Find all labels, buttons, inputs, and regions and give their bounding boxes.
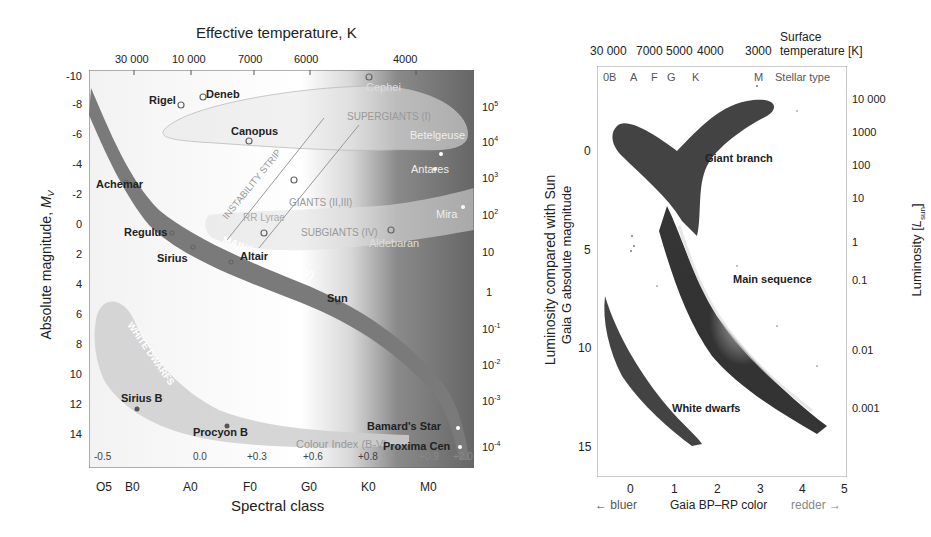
stellar-type: K <box>692 71 699 83</box>
star-label-barnards-star: Bamard's Star <box>367 420 441 432</box>
bluer-hint: ← bluer <box>595 498 637 512</box>
gaia-lum-tick: 10 000 <box>852 93 886 105</box>
star-label-procyon-b: Procyon B <box>193 426 248 438</box>
stellar-type: 0B <box>603 71 616 83</box>
mag-tick: -8 <box>72 98 82 110</box>
lum-tick: 10 <box>482 245 494 258</box>
lum-tick: 104 <box>482 135 498 148</box>
star-label-sirius-b: Sirius B <box>121 392 163 404</box>
ylabel-sub: V <box>46 190 56 196</box>
mag-tick: -10 <box>66 70 82 82</box>
gaia-mag-tick: 0 <box>584 144 591 158</box>
star-label-regulus: Regulus <box>124 226 167 238</box>
mag-tick: 6 <box>76 308 82 320</box>
gaia-lum-tick: 0.1 <box>852 274 867 286</box>
lum-tick: 1 <box>486 285 492 298</box>
gaia-x-axis-label: Gaia BP–RP color <box>670 498 767 512</box>
gaia-y2sym: L <box>909 220 924 227</box>
mag-tick: -4 <box>72 158 82 170</box>
stellar-type-label: Stellar type <box>775 71 830 83</box>
star-label-cephei: Cephei <box>366 81 401 93</box>
left-temp-tick: 6000 <box>294 53 318 65</box>
annotation-white-dwarfs: White dwarfs <box>672 402 740 414</box>
svg-text:-0.5: -0.5 <box>94 451 112 462</box>
star-label-rigel: Rigel <box>149 94 176 106</box>
left-x-axis-title: Spectral class <box>231 497 324 514</box>
right-temp-tick: 3000 <box>745 44 772 58</box>
star-label-altair: Altair <box>240 250 268 262</box>
gaia-lum-tick: 10 <box>852 192 864 204</box>
stellar-type: A <box>630 71 637 83</box>
gaia-y2label: Luminosity [ <box>909 227 924 296</box>
gaia-color-tick: 5 <box>841 482 848 496</box>
mag-tick: -2 <box>72 188 82 200</box>
lum-tick: 10-1 <box>482 322 500 335</box>
svg-text:+0.3: +0.3 <box>247 451 267 462</box>
star-label-aldebaran: Aldebaran <box>369 237 419 249</box>
gaia-lum-tick: 1 <box>852 236 858 248</box>
right-temp-tick: 5000 <box>666 44 693 58</box>
spectral-tick: G0 <box>301 480 317 494</box>
svg-text:+0.9: +0.9 <box>419 451 439 462</box>
star-label-mira: Mira <box>436 208 457 220</box>
spectral-tick: O5 <box>96 480 112 494</box>
svg-text:+0.8: +0.8 <box>358 451 378 462</box>
lum-tick: 105 <box>482 100 498 113</box>
stellar-type: F <box>651 71 658 83</box>
lum-tick: 103 <box>482 171 498 184</box>
lum-tick: 10-3 <box>482 394 500 407</box>
left-temp-tick: 4000 <box>393 53 417 65</box>
svg-text:+2.0: +2.0 <box>453 451 473 462</box>
right-temp-title-1: Surface <box>780 30 821 44</box>
star-label-rrlyrae: RR Lyrae <box>243 212 285 223</box>
lum-tick: 10-2 <box>482 358 500 371</box>
spectral-tick: K0 <box>361 480 376 494</box>
gaia-lum-tick: 0.01 <box>852 344 873 356</box>
right-plot-area <box>597 66 847 477</box>
supergiants-label: SUPERGIANTS (I) <box>347 111 431 122</box>
mag-tick: 10 <box>70 368 82 380</box>
gaia-mag-tick: 15 <box>578 440 591 454</box>
subgiants-label: SUBGIANTS (IV) <box>301 227 378 238</box>
spectral-tick: A0 <box>183 480 198 494</box>
annotation-main-sequence: Main sequence <box>733 273 812 285</box>
star-label-proxima-cen: Proxima Cen <box>383 440 450 452</box>
gaia-color-tick: 3 <box>757 482 764 496</box>
svg-text:Colour Index (B-V): Colour Index (B-V) <box>296 438 387 450</box>
stellar-type: M <box>754 71 763 83</box>
star-label-sirius: Sirius <box>157 252 188 264</box>
gaia-mag-tick: 5 <box>584 243 591 257</box>
gaia-color-tick: 4 <box>799 482 806 496</box>
gaia-y2sub: sun <box>918 207 927 220</box>
gaia-y2end: ] <box>909 203 924 207</box>
star-label-antares: Antares <box>411 163 449 175</box>
right-temp-tick: 7000 <box>636 44 663 58</box>
giants-label: GIANTS (II,III) <box>289 197 352 208</box>
left-temp-tick: 30 000 <box>115 53 149 65</box>
star-label-betelgeuse: Betelgeuse <box>410 129 465 141</box>
gaia-color-tick: 1 <box>671 482 678 496</box>
spectral-tick: M0 <box>420 480 437 494</box>
lum-tick: 10-4 <box>482 440 500 453</box>
right-temp-tick: 4000 <box>697 44 724 58</box>
ylabel-symbol: M <box>38 196 54 208</box>
mag-tick: -6 <box>72 128 82 140</box>
star-label-sun: Sun <box>327 292 348 304</box>
gaia-lum-tick: 100 <box>852 159 870 171</box>
mag-tick: 4 <box>76 278 82 290</box>
spectral-tick: B0 <box>125 480 140 494</box>
gaia-mag-tick: 10 <box>578 341 591 355</box>
gaia-color-tick: 2 <box>714 482 721 496</box>
svg-text:0.0: 0.0 <box>193 451 207 462</box>
mag-tick: 14 <box>70 428 82 440</box>
gaia-color-tick: 0 <box>627 482 634 496</box>
mag-tick: 0 <box>76 218 82 230</box>
left-top-axis-title: Effective temperature, K <box>196 24 357 41</box>
mag-tick: 12 <box>70 398 82 410</box>
ylabel-text: Absolute magnitude, <box>38 208 54 340</box>
left-temp-tick: 10 000 <box>172 53 206 65</box>
star-label-canopus: Canopus <box>231 125 278 137</box>
right-temp-tick: 30 000 <box>590 44 627 58</box>
mag-tick: 2 <box>76 248 82 260</box>
gaia-lum-tick: 1000 <box>852 126 876 138</box>
